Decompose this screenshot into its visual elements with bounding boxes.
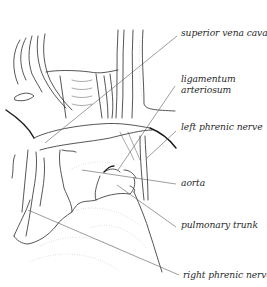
neck-structures	[14, 30, 175, 118]
leader-lines	[28, 36, 179, 275]
venous-trunks	[6, 110, 176, 236]
label-aorta: aorta	[181, 178, 205, 188]
leader-aorta	[82, 170, 176, 184]
label-ligamentum-arteriosum-line1: ligamentum	[181, 74, 236, 84]
drawing-canvas	[0, 0, 267, 287]
label-right-phrenic-nerve: right phrenic nerve	[183, 270, 267, 280]
anatomy-diagram: superior vena cava ligamentum arteriosum…	[0, 0, 267, 287]
label-ligamentum-arteriosum-line2: arteriosum	[181, 85, 231, 95]
leader-right-phrenic-nerve	[28, 210, 179, 275]
leader-left-phrenic-nerve	[147, 131, 176, 158]
leader-pulmonary-trunk	[117, 185, 176, 227]
label-superior-vena-cava: superior vena cava	[181, 28, 267, 38]
label-pulmonary-trunk: pulmonary trunk	[181, 220, 258, 230]
label-left-phrenic-nerve: left phrenic nerve	[181, 122, 263, 132]
leader-superior-vena-cava	[45, 36, 177, 143]
